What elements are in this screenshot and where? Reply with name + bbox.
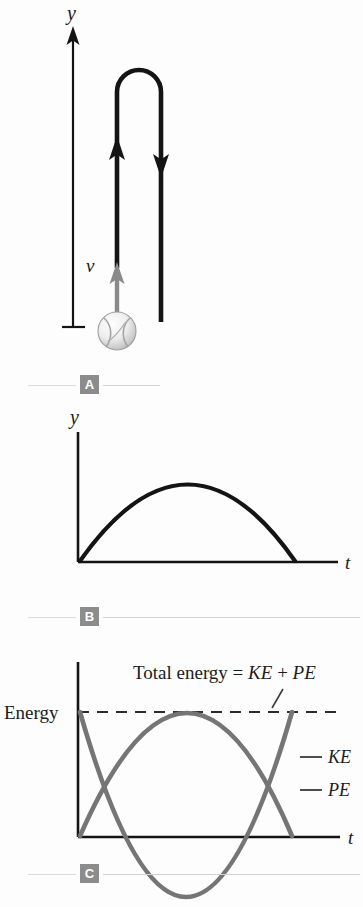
- panel-c-rule-left: [28, 874, 76, 875]
- panel-b-rule-right: [103, 617, 360, 618]
- caption-leader-line: [272, 689, 283, 708]
- panel-b-figure: y t: [0, 400, 363, 632]
- velocity-label: v: [86, 255, 95, 276]
- panel-b-rule-left: [28, 617, 76, 618]
- panel-c-axes: [78, 662, 340, 837]
- panel-c-energy-vs-time: Total energy = KE + PE Energy t KE PE C: [0, 632, 363, 907]
- panel-c-x-axis-label: t: [348, 827, 354, 848]
- panel-c-y-axis-label: Energy: [4, 702, 59, 723]
- panel-a-rule-right: [103, 385, 160, 386]
- total-energy-caption-text: Total energy =: [133, 662, 248, 683]
- total-energy-caption-ke: KE: [247, 662, 273, 683]
- panel-a-figure: y v: [0, 0, 363, 400]
- ke-curve: [80, 712, 292, 897]
- total-energy-caption-pe: PE: [292, 662, 317, 683]
- panel-c-figure: Total energy = KE + PE Energy t KE PE: [0, 632, 363, 907]
- ball-icon: [98, 312, 136, 350]
- pe-label: PE: [327, 780, 350, 800]
- panel-a-badge: A: [80, 375, 99, 394]
- panel-b-x-axis-label: t: [345, 552, 351, 573]
- panel-b-badge: B: [80, 607, 99, 626]
- y-axis-line: [62, 26, 85, 327]
- y-axis-label: y: [65, 2, 76, 25]
- panel-b-y-axis-label: y: [68, 406, 79, 429]
- panel-a-rule-left: [28, 385, 76, 386]
- pe-curve: [80, 713, 292, 836]
- panel-b-height-vs-time: y t B: [0, 400, 363, 632]
- height-curve: [80, 485, 295, 562]
- ke-label: KE: [327, 747, 351, 767]
- panel-b-axes: [78, 432, 338, 562]
- total-energy-caption: Total energy = KE + PE: [133, 662, 316, 683]
- panel-c-badge: C: [80, 864, 99, 883]
- velocity-arrow: [110, 262, 125, 318]
- panel-a-trajectory: y v A: [0, 0, 363, 400]
- total-energy-caption-plus: +: [272, 662, 292, 683]
- panel-c-rule-right: [103, 874, 360, 875]
